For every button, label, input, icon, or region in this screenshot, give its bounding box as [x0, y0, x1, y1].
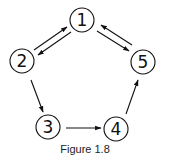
edge-5-to-1 — [101, 25, 132, 45]
edge-2-to-3 — [31, 80, 43, 112]
directed-graph: 1 2 3 4 5 — [0, 0, 170, 164]
node-5: 5 — [131, 50, 155, 74]
node-1: 1 — [70, 8, 94, 32]
node-1-label: 1 — [77, 10, 88, 30]
edge-1-to-5 — [97, 31, 129, 51]
node-4-label: 4 — [111, 119, 122, 139]
node-3: 3 — [36, 115, 60, 139]
figure-caption: Figure 1.8 — [0, 143, 170, 155]
edge-4-to-5 — [126, 80, 138, 114]
node-5-label: 5 — [138, 52, 149, 72]
node-4: 4 — [104, 117, 128, 141]
node-3-label: 3 — [43, 117, 54, 137]
node-2: 2 — [10, 49, 34, 73]
node-2-label: 2 — [17, 51, 28, 71]
